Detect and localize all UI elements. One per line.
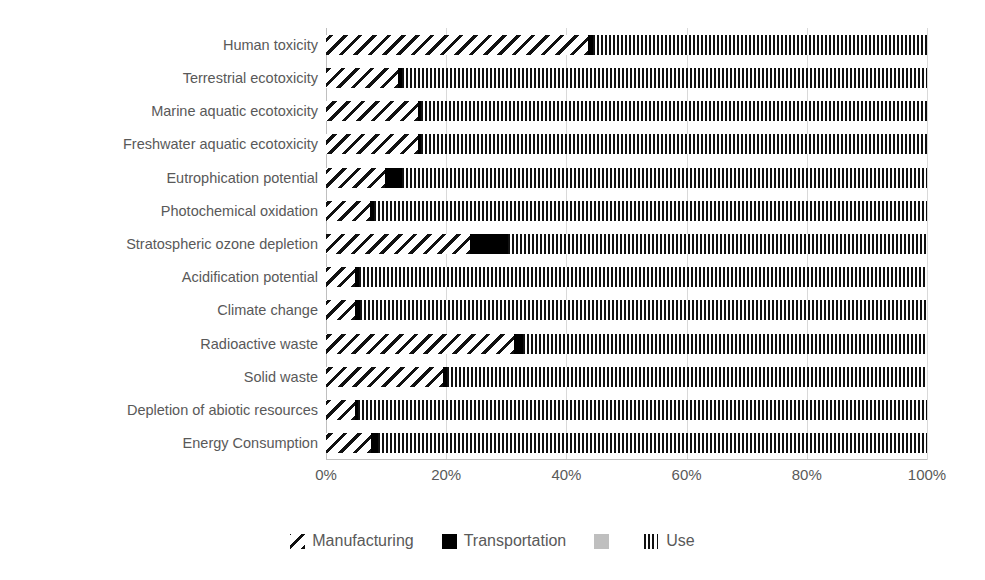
bar-segment-manufacturing (326, 300, 355, 320)
bar-segment-manufacturing (326, 101, 418, 121)
bar-segment-manufacturing (326, 400, 355, 420)
bar-segment-use (421, 101, 927, 121)
bar-segment-transportation (514, 334, 523, 354)
bar-segment-transportation (385, 168, 402, 188)
bar-segment-manufacturing (326, 168, 385, 188)
y-axis-label: Freshwater aquatic ecotoxicity (123, 134, 318, 154)
x-axis-tick-label: 100% (908, 466, 946, 483)
bar-segment-use (402, 168, 927, 188)
legend-item[interactable]: Use (644, 533, 694, 549)
y-axis-label: Terrestrial ecotoxicity (183, 68, 318, 88)
bar-segment-manufacturing (326, 35, 588, 55)
y-axis-label: Solid waste (244, 367, 318, 387)
bar-row (326, 400, 927, 420)
bar-segment-manufacturing (326, 234, 470, 254)
bar-row (326, 35, 927, 55)
bar-row (326, 367, 927, 387)
bar-segment-manufacturing (326, 201, 370, 221)
legend-item[interactable]: Transportation (442, 533, 567, 549)
bar-segment-use (508, 234, 927, 254)
bar-segment-use (447, 367, 927, 387)
y-axis-label: Depletion of abiotic resources (127, 400, 318, 420)
legend-item[interactable]: Manufacturing (290, 533, 413, 549)
bar-segment-manufacturing (326, 134, 418, 154)
bar-segment-use (359, 267, 927, 287)
bar-row (326, 334, 927, 354)
y-axis-label: Energy Consumption (183, 433, 318, 453)
bar-segment-manufacturing (326, 267, 355, 287)
x-axis-tick-label: 80% (792, 466, 822, 483)
bar-segment-use (374, 201, 927, 221)
bar-segment-manufacturing (326, 68, 398, 88)
x-axis-tick-label: 0% (315, 466, 337, 483)
legend-label: Manufacturing (312, 533, 413, 549)
x-axis-tick-label: 60% (672, 466, 702, 483)
y-axis-label: Human toxicity (223, 35, 318, 55)
y-axis-label: Climate change (217, 300, 318, 320)
bar-segment-use (358, 400, 927, 420)
bar-segment-manufacturing (326, 334, 514, 354)
bar-series-container (326, 28, 927, 460)
chart-legend: ManufacturingTransportationUse (0, 524, 985, 558)
bar-row (326, 101, 927, 121)
bar-row (326, 267, 927, 287)
bar-row (326, 433, 927, 453)
legend-item[interactable] (594, 534, 616, 549)
bar-row (326, 68, 927, 88)
bar-row (326, 300, 927, 320)
plot-area (326, 28, 927, 460)
y-axis-label: Stratospheric ozone depletion (126, 234, 318, 254)
diagonal-hatch-swatch-icon (290, 534, 305, 549)
y-axis-label: Radioactive waste (200, 334, 318, 354)
bar-segment-manufacturing (326, 433, 371, 453)
y-axis-label: Photochemical oxidation (161, 201, 318, 221)
solid-black-swatch-icon (442, 534, 457, 549)
bar-row (326, 134, 927, 154)
vertical-stripes-swatch-icon (644, 534, 659, 549)
y-axis-category-labels: Human toxicityTerrestrial ecotoxicityMar… (0, 28, 318, 460)
bar-segment-transportation (470, 234, 508, 254)
bar-segment-use (523, 334, 927, 354)
legend-label: Transportation (464, 533, 567, 549)
stacked-bar-chart: Human toxicityTerrestrial ecotoxicityMar… (0, 0, 985, 580)
y-axis-label: Acidification potential (182, 267, 318, 287)
bar-segment-manufacturing (326, 367, 443, 387)
x-axis-tick-labels: 0%20%40%60%80%100% (326, 466, 927, 496)
bar-segment-use (378, 433, 927, 453)
bar-segment-transportation (371, 433, 378, 453)
solid-gray-swatch-icon (594, 534, 609, 549)
bar-row (326, 201, 927, 221)
bar-row (326, 234, 927, 254)
y-axis-label: Eutrophication potential (166, 168, 318, 188)
x-axis-tick-label: 40% (551, 466, 581, 483)
bar-segment-use (360, 300, 927, 320)
bar-segment-use (421, 134, 927, 154)
x-axis-tick-label: 20% (431, 466, 461, 483)
bar-row (326, 168, 927, 188)
legend-label: Use (666, 533, 694, 549)
bar-segment-use (402, 68, 927, 88)
bar-segment-use (593, 35, 927, 55)
y-axis-label: Marine aquatic ecotoxicity (151, 101, 318, 121)
gridline-100 (927, 28, 928, 460)
